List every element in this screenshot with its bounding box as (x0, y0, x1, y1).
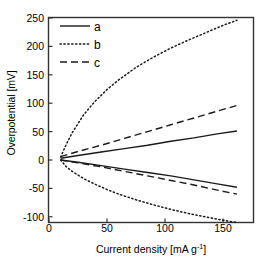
legend-label-b: b (94, 38, 101, 52)
plot-area: abc (0, 0, 265, 265)
legend-label-c: c (94, 56, 100, 70)
legend-label-a: a (94, 20, 101, 34)
chart-figure: Overpotential [mV] 250200150100500-50-10… (0, 0, 265, 265)
